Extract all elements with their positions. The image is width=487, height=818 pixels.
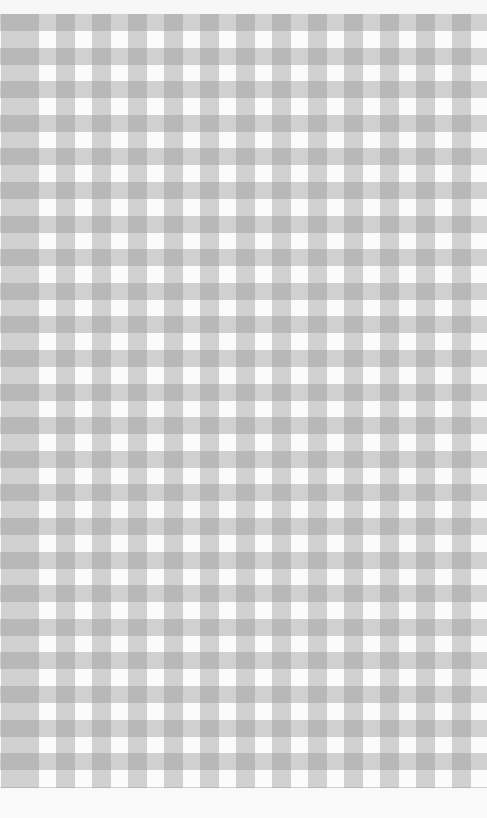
gingham-fabric-pattern [0, 14, 487, 788]
fabric-top-edge [0, 0, 487, 14]
fabric-bottom-edge [0, 788, 487, 818]
